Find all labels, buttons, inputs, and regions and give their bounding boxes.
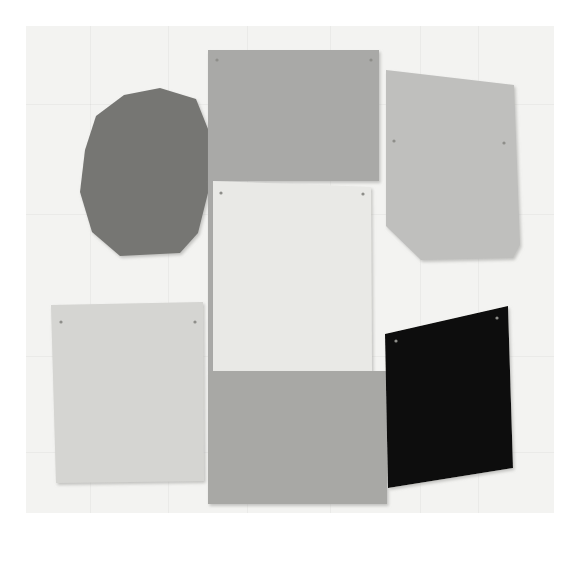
pin-icon [394, 339, 397, 342]
wall-backdrop: Dark gray rounded polygonMedium gray tal… [26, 26, 554, 513]
panels-layer: Dark gray rounded polygonMedium gray tal… [26, 26, 554, 513]
pin-icon [219, 191, 222, 194]
artwork-frame: Dark gray rounded polygonMedium gray tal… [0, 0, 580, 564]
panel-bottom-center-gray-panel: Medium gray panel, lower center [208, 371, 387, 504]
top-center-gray-panel-lower-surface [208, 181, 213, 371]
panel-bottom-left-light-panel: Light gray panel, lower left [51, 302, 204, 483]
panel-gray-polygon-disc: Dark gray rounded polygon [80, 88, 212, 256]
panel-top-center-gray-panel: Medium gray tall rectangle (upper) [208, 50, 379, 181]
pin-icon [215, 58, 218, 61]
pin-icon [59, 320, 62, 323]
center-white-panel-surface [213, 181, 372, 371]
pin-icon [361, 192, 364, 195]
black-panel-surface [385, 306, 513, 488]
pin-icon [369, 58, 372, 61]
pin-icon [495, 316, 498, 319]
bottom-center-gray-panel-surface [208, 371, 387, 504]
panel-center-white-panel: Pale off-white center panel [213, 181, 372, 371]
panel-black-panel: Black panel, lower right [385, 306, 513, 488]
panels-svg: Dark gray rounded polygonMedium gray tal… [26, 26, 554, 513]
bottom-left-light-panel-surface [51, 302, 204, 483]
top-center-gray-panel-surface [208, 50, 379, 181]
right-pentagon-panel-surface [386, 70, 520, 260]
pin-icon [392, 139, 395, 142]
gray-polygon-disc-surface [80, 88, 212, 256]
pin-icon [193, 320, 196, 323]
panel-right-pentagon-panel: Light gray pentagon panel [386, 70, 520, 260]
pin-icon [502, 141, 505, 144]
panel-top-center-gray-panel-lower: Medium gray tall rectangle (lower contin… [208, 181, 213, 371]
